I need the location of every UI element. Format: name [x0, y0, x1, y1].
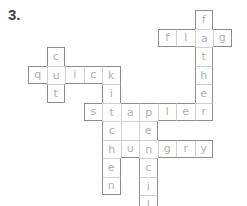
- cell-letter: e: [145, 125, 152, 136]
- crossword-cell[interactable]: t: [102, 103, 121, 122]
- crossword-grid: flagftherquickctitchensapleencilugry: [0, 0, 247, 206]
- crossword-cell[interactable]: k: [102, 66, 121, 85]
- crossword-cell[interactable]: c: [47, 47, 66, 66]
- crossword-cell[interactable]: l: [139, 195, 158, 206]
- cell-letter: g: [219, 32, 226, 43]
- crossword-cell[interactable]: e: [195, 84, 214, 103]
- cell-letter: k: [108, 70, 114, 81]
- cell-letter: s: [90, 106, 96, 117]
- crossword-cell[interactable]: i: [102, 84, 121, 103]
- cell-letter: h: [108, 144, 115, 155]
- crossword-cell[interactable]: n: [102, 177, 121, 196]
- crossword-cell[interactable]: h: [195, 66, 214, 85]
- cell-letter: e: [182, 106, 189, 117]
- crossword-cell[interactable]: y: [195, 140, 214, 159]
- cell-letter: a: [201, 33, 208, 44]
- crossword-cell[interactable]: q: [28, 66, 47, 85]
- crossword-cell[interactable]: e: [139, 121, 158, 140]
- cell-letter: f: [202, 14, 206, 25]
- cell-letter: u: [127, 143, 134, 154]
- cell-letter: a: [127, 107, 134, 118]
- crossword-cell[interactable]: g: [213, 29, 232, 48]
- cell-letter: n: [145, 144, 152, 155]
- crossword-cell[interactable]: c: [102, 121, 121, 140]
- crossword-cell[interactable]: g: [158, 140, 177, 159]
- cell-letter: r: [201, 106, 206, 117]
- cell-letter: t: [110, 107, 114, 118]
- cell-letter: p: [145, 107, 152, 118]
- crossword-cell[interactable]: p: [139, 103, 158, 122]
- cell-letter: c: [90, 69, 96, 80]
- crossword-cell[interactable]: t: [47, 84, 66, 103]
- cell-letter: i: [110, 88, 113, 99]
- crossword-cell[interactable]: n: [139, 140, 158, 159]
- cell-letter: i: [147, 181, 150, 192]
- crossword-cell[interactable]: s: [84, 103, 103, 122]
- cell-letter: c: [145, 162, 151, 173]
- crossword-cell[interactable]: u: [121, 140, 140, 159]
- crossword-cell[interactable]: l: [176, 29, 195, 48]
- cell-letter: n: [108, 180, 115, 191]
- cell-letter: c: [53, 51, 59, 62]
- cell-letter: e: [200, 88, 207, 99]
- cell-letter: i: [73, 69, 76, 80]
- cell-letter: t: [54, 88, 58, 99]
- cell-letter: t: [202, 51, 206, 62]
- crossword-cell[interactable]: r: [176, 140, 195, 159]
- cell-letter: l: [147, 199, 150, 206]
- crossword-cell[interactable]: i: [65, 66, 84, 85]
- crossword-cell[interactable]: i: [139, 177, 158, 196]
- crossword-cell[interactable]: f: [158, 29, 177, 48]
- crossword-cell[interactable]: h: [102, 140, 121, 159]
- cell-letter: f: [165, 32, 169, 43]
- cell-letter: u: [53, 70, 60, 81]
- crossword-cell[interactable]: r: [195, 103, 214, 122]
- crossword-cell[interactable]: c: [139, 158, 158, 177]
- crossword-cell[interactable]: u: [47, 66, 66, 85]
- cell-letter: q: [34, 69, 41, 80]
- crossword-cell[interactable]: f: [195, 10, 214, 29]
- crossword-cell[interactable]: e: [102, 158, 121, 177]
- cell-letter: g: [164, 143, 171, 154]
- crossword-cell[interactable]: t: [195, 47, 214, 66]
- crossword-cell[interactable]: c: [84, 66, 103, 85]
- cell-letter: l: [166, 106, 169, 117]
- crossword-cell[interactable]: a: [121, 103, 140, 122]
- cell-letter: e: [108, 162, 115, 173]
- cell-letter: c: [109, 125, 115, 136]
- crossword-cell[interactable]: e: [176, 103, 195, 122]
- cell-letter: r: [183, 143, 188, 154]
- cell-letter: y: [200, 143, 207, 154]
- crossword-cell[interactable]: [121, 121, 140, 140]
- crossword-cell[interactable]: l: [158, 103, 177, 122]
- crossword-cell[interactable]: a: [195, 29, 214, 48]
- cell-letter: h: [200, 70, 207, 81]
- cell-letter: l: [184, 32, 187, 43]
